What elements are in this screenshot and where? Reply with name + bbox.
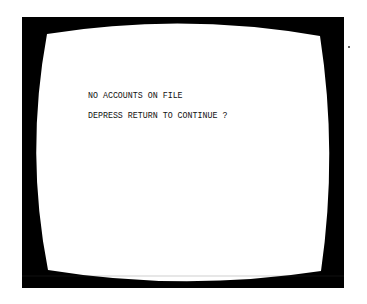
indicator-dot [348, 46, 350, 48]
crt-bezel [0, 0, 367, 304]
continue-prompt: DEPRESS RETURN TO CONTINUE ? [88, 111, 227, 121]
status-message: NO ACCOUNTS ON FILE [88, 91, 183, 101]
crt-monitor: NO ACCOUNTS ON FILE DEPRESS RETURN TO CO… [0, 0, 367, 304]
